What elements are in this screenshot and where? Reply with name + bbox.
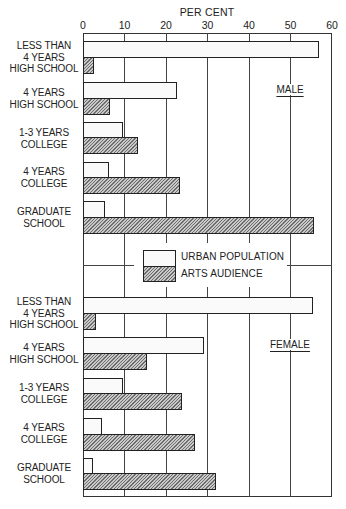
bar-male-lt4hs-arts xyxy=(83,57,94,74)
bar-female-4hs-arts xyxy=(83,353,147,370)
category-label: LESS THAN 4 YEARS HIGH SCHOOL xyxy=(0,296,88,331)
bar-male-lt4hs-urban xyxy=(83,41,319,58)
panel-divider-right xyxy=(287,265,332,266)
bar-male-4col-arts xyxy=(83,177,180,194)
bar-male-4hs-arts xyxy=(83,98,110,115)
category-label: 4 YEARS HIGH SCHOOL xyxy=(0,87,88,110)
legend-label-urban: URBAN POPULATION xyxy=(181,251,284,262)
bar-female-4hs-urban xyxy=(83,337,204,354)
category-label: GRADUATE SCHOOL xyxy=(0,462,88,485)
category-label: 4 YEARS HIGH SCHOOL xyxy=(0,342,88,365)
x-tick-label: 20 xyxy=(154,19,178,31)
legend-swatch-arts xyxy=(143,266,176,282)
category-label: 1-3 YEARS COLLEGE xyxy=(0,127,88,150)
bar-male-grad-arts xyxy=(83,217,314,234)
bar-male-13col-arts xyxy=(83,137,138,154)
bar-female-4col-arts xyxy=(83,434,195,451)
bar-male-4col-urban xyxy=(83,162,109,178)
bar-female-13col-urban xyxy=(83,378,123,394)
bar-male-grad-urban xyxy=(83,201,105,218)
x-tick-label: 0 xyxy=(71,19,95,31)
x-tick-label: 40 xyxy=(237,19,261,31)
x-tick-label: 10 xyxy=(113,19,137,31)
bar-female-4col-urban xyxy=(83,418,102,435)
bar-male-4hs-urban xyxy=(83,82,177,99)
bar-female-lt4hs-arts xyxy=(83,313,96,330)
x-tick-label: 60 xyxy=(320,19,344,31)
bar-female-13col-arts xyxy=(83,393,182,410)
legend-swatch-urban xyxy=(143,250,176,267)
legend-label-arts: ARTS AUDIENCE xyxy=(181,268,263,279)
x-tick-label: 50 xyxy=(279,19,303,31)
bar-female-grad-arts xyxy=(83,473,216,490)
bar-female-grad-urban xyxy=(83,458,93,474)
bar-female-lt4hs-urban xyxy=(83,297,313,314)
panel-label-female: FEMALE xyxy=(268,339,312,350)
x-axis-title: PER CENT xyxy=(0,6,346,18)
category-label: 1-3 YEARS COLLEGE xyxy=(0,382,88,405)
category-label: 4 YEARS COLLEGE xyxy=(0,166,88,189)
bar-male-13col-urban xyxy=(83,122,123,138)
x-tick-label: 30 xyxy=(196,19,220,31)
category-label: LESS THAN 4 YEARS HIGH SCHOOL xyxy=(0,40,88,75)
category-label: GRADUATE SCHOOL xyxy=(0,206,88,229)
panel-label-male: MALE xyxy=(274,84,305,95)
panel-divider-left xyxy=(83,265,134,266)
category-label: 4 YEARS COLLEGE xyxy=(0,422,88,445)
